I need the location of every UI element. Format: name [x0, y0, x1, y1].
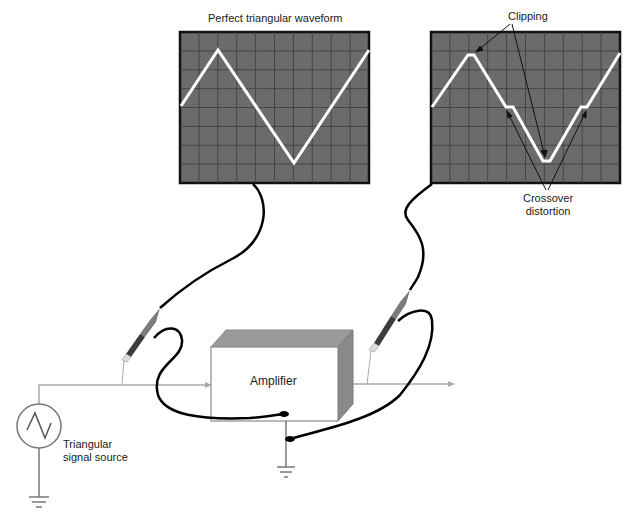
crossover-label-line1: Crossover [523, 192, 573, 205]
probe-left-ground-clip [279, 411, 289, 417]
output-arrowhead [448, 381, 455, 387]
clipping-label: Clipping [508, 10, 548, 23]
amplifier-label: Amplifier [250, 375, 297, 388]
probe-right [367, 290, 410, 384]
probe-left [122, 308, 160, 384]
crossover-label: Crossover distortion [523, 192, 573, 218]
probe-cable-left [160, 184, 264, 308]
probe-cable-right [405, 184, 432, 290]
amplifier-ground-icon [277, 467, 295, 477]
signal-source [17, 404, 61, 507]
probe-right-needle [367, 351, 371, 384]
source-label-line1: Triangular [63, 438, 128, 451]
scope-right [431, 24, 620, 190]
source-label-line2: signal source [63, 451, 128, 464]
amplifier-top-face [211, 330, 353, 347]
probe-left-handle [126, 334, 145, 357]
input-signal-wire [39, 385, 205, 413]
source-label: Triangular signal source [63, 438, 128, 464]
crossover-label-line2: distortion [523, 205, 573, 218]
probe-right-handle [374, 316, 396, 346]
probe-left-tip-taper [140, 308, 160, 337]
scope-left-title: Perfect triangular waveform [208, 12, 343, 25]
scope-left [180, 32, 369, 183]
probe-left-needle [122, 361, 124, 384]
probe-right-ground-clip [285, 436, 295, 442]
source-ground-icon [29, 497, 49, 507]
source-circle [17, 404, 61, 448]
